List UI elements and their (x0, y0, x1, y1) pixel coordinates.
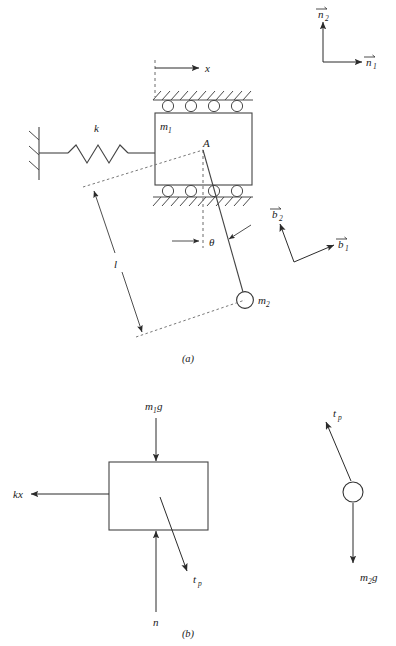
panel-b: m 1 g kx n t p t p m 2 g (13, 400, 378, 640)
theta-label: θ (209, 236, 215, 248)
top-support (153, 91, 253, 112)
panel-a: n 2 n 1 x (29, 7, 377, 365)
fbd-block-tension-sub: p (197, 579, 202, 588)
length-arrow-upper (94, 191, 115, 253)
roller (208, 100, 219, 111)
fbd-block-tension-arrow (160, 497, 187, 571)
n1-vector-sub: 1 (373, 62, 377, 71)
top-rollers (162, 100, 242, 111)
fbd-bob-weight-label-tail: g (372, 571, 378, 583)
panel-b-caption: (b) (182, 628, 195, 640)
roller (162, 185, 173, 196)
fbd-bob-tension-sub: p (337, 413, 342, 422)
fbd-block-weight-label-tail: g (157, 400, 163, 412)
fbd-bob-body (343, 482, 363, 502)
n2-vector-label: n (318, 8, 324, 20)
fixed-wall (29, 127, 39, 180)
top-hatching (153, 91, 251, 100)
fbd-block: m 1 g kx n t p (13, 400, 208, 628)
wall-hatch (29, 131, 39, 140)
length-label-l: l (114, 258, 117, 270)
bob-mass-label: m (258, 294, 266, 306)
spring-assembly: k (39, 122, 155, 163)
spring-coil (68, 145, 128, 163)
b1-vector-sub: 1 (345, 244, 349, 253)
fbd-block-weight-label: m (145, 400, 153, 412)
roller (185, 100, 196, 111)
angle-theta-annotation: θ (172, 225, 251, 248)
fbd-bob-tension-label: t (333, 407, 337, 419)
length-arrow-lower (122, 272, 142, 332)
pendulum-rod (203, 150, 243, 292)
n1-vector-label: n (366, 56, 372, 68)
fbd-bob: t p m 2 g (326, 407, 378, 586)
wall-hatch (29, 146, 39, 155)
x-displacement-label: x (204, 62, 210, 74)
fbd-bob-weight-label: m (360, 571, 368, 583)
b2-vector-arrow (280, 224, 294, 262)
theta-right-arrow (229, 225, 251, 239)
bob-mass-sub: 2 (266, 300, 270, 309)
fbd-block-spring-label: kx (13, 488, 23, 500)
panel-a-caption: (a) (182, 353, 195, 365)
roller (162, 100, 173, 111)
figure-root: n 2 n 1 x (0, 0, 396, 646)
spring-constant-label: k (94, 122, 100, 134)
length-lower-guide-dashed (136, 300, 245, 337)
basis-frame-n: n 2 n 1 (316, 7, 377, 71)
length-upper-guide-dashed (83, 150, 203, 187)
fbd-block-normal-label: n (153, 616, 159, 628)
b2-vector-sub: 2 (279, 214, 283, 223)
pendulum-assembly: A m 2 (202, 137, 270, 309)
fbd-block-body (109, 462, 208, 530)
b1-vector-arrow (294, 245, 334, 262)
basis-frame-b: b 2 b 1 (270, 207, 349, 262)
roller (231, 100, 242, 111)
roller (231, 185, 242, 196)
n2-vector-sub: 2 (325, 14, 329, 23)
length-dimension-l: l (83, 150, 245, 337)
pivot-label-A: A (202, 137, 210, 149)
bottom-hatching (153, 197, 251, 206)
fbd-bob-tension-arrow (326, 422, 351, 481)
wall-hatch (29, 161, 39, 170)
fbd-block-tension-label: t (193, 573, 197, 585)
b1-vector-label: b (338, 238, 344, 250)
b2-vector-label: b (272, 208, 278, 220)
roller (185, 185, 196, 196)
cart-mass-label: m (160, 120, 168, 132)
cart-mass-sub: 1 (168, 126, 172, 135)
figure-svg: n 2 n 1 x (0, 0, 396, 646)
